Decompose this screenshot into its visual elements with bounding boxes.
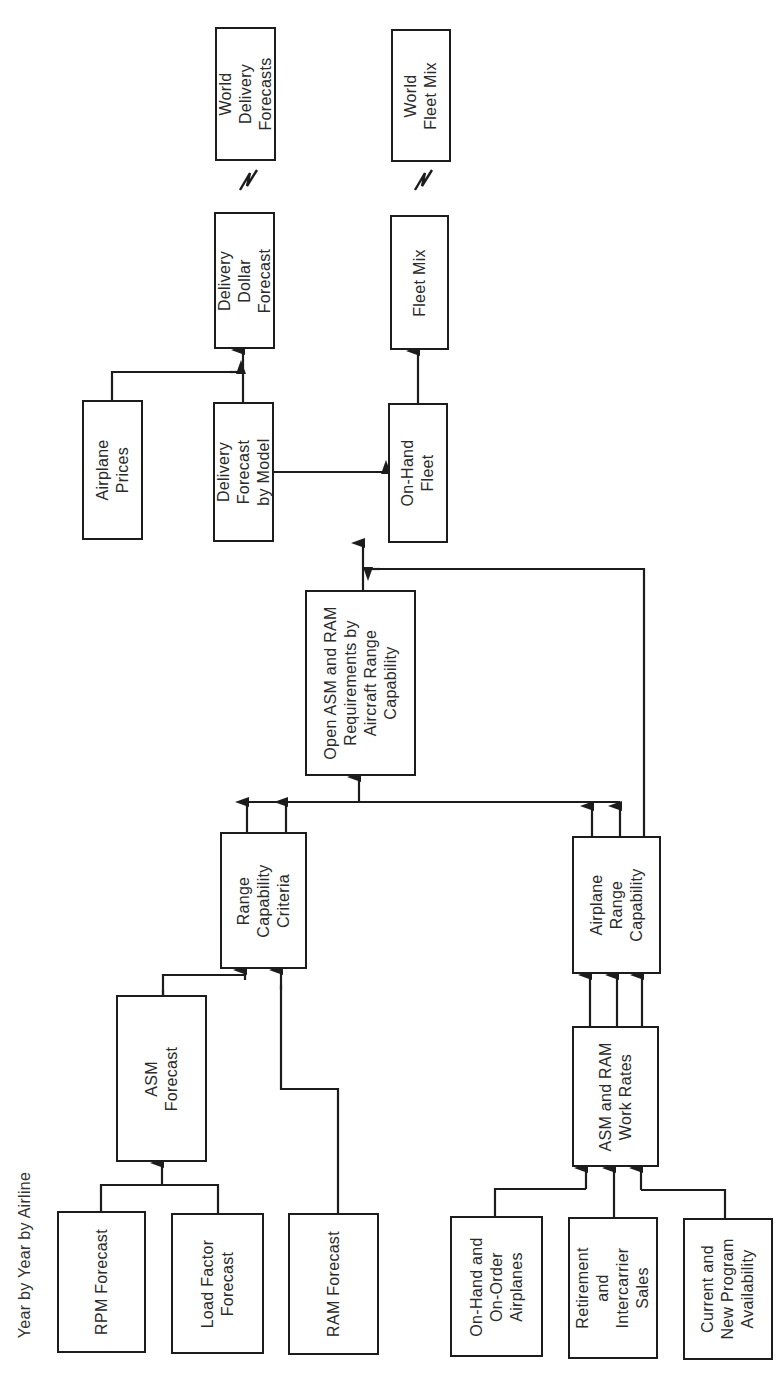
box-airplane-prices: Airplane Prices (82, 400, 143, 540)
box-fleet-mix: Fleet Mix (390, 215, 449, 350)
box-label: World Fleet Mix (401, 62, 441, 130)
box-label: Fleet Mix (410, 249, 430, 317)
box-open-asm-ram-requirements: Open ASM and RAM Requirements by Aircraf… (305, 590, 416, 776)
box-label: On-Hand and On-Order Airplanes (467, 1237, 527, 1336)
box-label: ASM and RAM Work Rates (596, 1042, 636, 1151)
box-label: ASM Forecast (142, 1046, 182, 1111)
box-rpm-forecast: RPM Forecast (57, 1211, 146, 1353)
box-load-factor-forecast: Load Factor Forecast (171, 1213, 264, 1354)
box-ram-forecast: RAM Forecast (288, 1213, 379, 1355)
break-symbol-icon (240, 170, 432, 190)
box-asm-forecast: ASM Forecast (116, 995, 207, 1162)
box-label: Retirement and Intercarrier Sales (573, 1247, 653, 1328)
box-label: Load Factor Forecast (198, 1239, 238, 1328)
box-label: RPM Forecast (92, 1229, 112, 1335)
box-delivery-dollar-forecast: Delivery Dollar Forecast (214, 212, 275, 349)
box-world-fleet-mix: World Fleet Mix (391, 29, 451, 162)
side-label-year-by-year: Year by Year by Airline (16, 1172, 34, 1338)
box-label: Current and New Program Availability (698, 1238, 758, 1339)
flow-diagram: World Delivery Forecasts World Fleet Mix… (0, 0, 776, 1388)
box-label: Delivery Dollar Forecast (215, 248, 275, 313)
box-label: Airplane Prices (93, 439, 133, 500)
box-label: Open ASM and RAM Requirements by Aircraf… (321, 606, 401, 759)
box-label: RAM Forecast (324, 1231, 344, 1337)
box-airplane-range-capability: Airplane Range Capability (572, 836, 661, 974)
box-label: Airplane Range Capability (587, 868, 647, 941)
box-retirement-intercarrier-sales: Retirement and Intercarrier Sales (568, 1217, 658, 1359)
box-on-hand-on-order-airplanes: On-Hand and On-Order Airplanes (450, 1216, 543, 1357)
box-label: Delivery Forecast by Model (214, 438, 274, 505)
box-label: Range Capability Criteria (234, 864, 294, 937)
box-world-delivery-forecasts: World Delivery Forecasts (215, 27, 276, 161)
box-asm-ram-work-rates: ASM and RAM Work Rates (572, 1026, 659, 1167)
box-delivery-forecast-by-model: Delivery Forecast by Model (213, 402, 274, 542)
box-on-hand-fleet: On-Hand Fleet (388, 403, 448, 543)
box-label: World Delivery Forecasts (216, 58, 276, 131)
box-label: On-Hand Fleet (398, 439, 438, 506)
box-range-capability-criteria: Range Capability Criteria (220, 832, 307, 969)
box-current-new-program-availability: Current and New Program Availability (683, 1218, 773, 1360)
